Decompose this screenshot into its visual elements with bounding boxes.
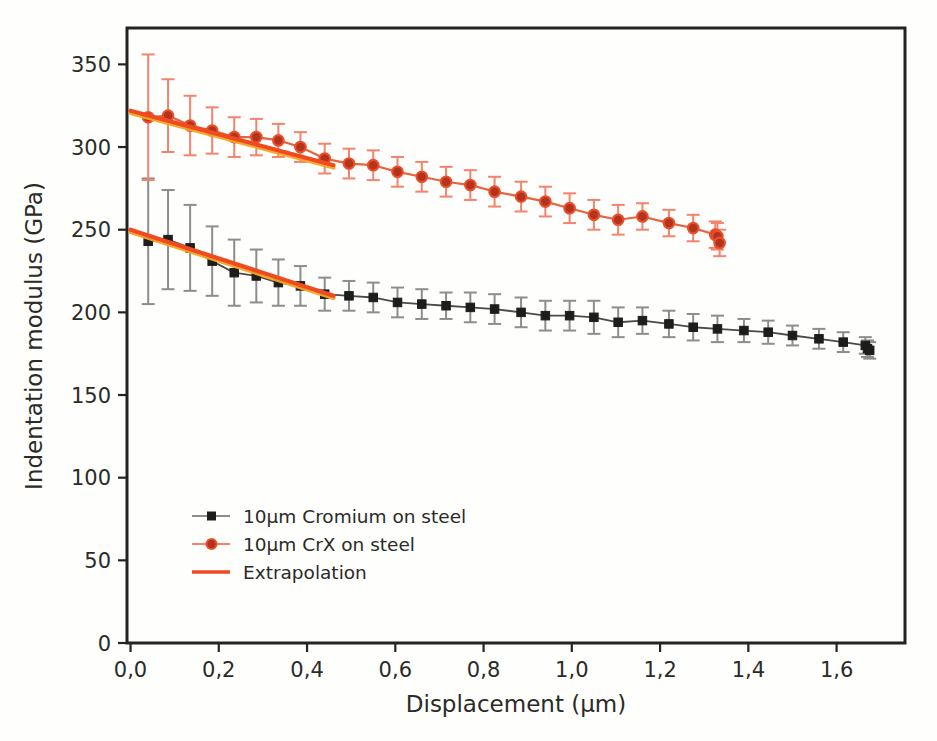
- data-point: [251, 132, 262, 143]
- data-point: [368, 160, 379, 171]
- data-point: [637, 211, 648, 222]
- data-point: [466, 303, 475, 312]
- y-axis-tick-labels: 050100150200250300350: [71, 53, 111, 656]
- x-tick-label: 0,0: [114, 658, 147, 682]
- data-point: [345, 292, 354, 301]
- data-point: [713, 325, 722, 334]
- data-point: [865, 346, 874, 355]
- extrapolation-line: [131, 111, 334, 168]
- data-point: [369, 293, 378, 302]
- error-bars: [142, 54, 726, 256]
- legend-marker-circle: [207, 539, 217, 549]
- x-tick-label: 1,6: [820, 658, 853, 682]
- data-point: [815, 335, 824, 344]
- y-tick-label: 150: [71, 384, 111, 408]
- data-point: [540, 196, 551, 207]
- series-crx: [142, 54, 726, 256]
- data-point: [295, 142, 306, 153]
- data-point: [489, 186, 500, 197]
- data-point: [392, 167, 403, 178]
- data-point: [393, 298, 402, 307]
- data-point: [664, 218, 675, 229]
- y-tick-label: 100: [71, 466, 111, 490]
- data-point: [788, 331, 797, 340]
- data-point: [273, 135, 284, 146]
- y-tick-label: 0: [98, 632, 111, 656]
- data-point: [688, 223, 699, 234]
- indentation-modulus-chart: 0,00,20,40,60,81,01,21,41,6 050100150200…: [0, 0, 937, 741]
- data-point: [416, 171, 427, 182]
- data-point: [589, 210, 600, 221]
- data-point: [714, 238, 725, 249]
- legend-label: Extrapolation: [243, 562, 367, 583]
- legend-item: Extrapolation: [192, 562, 367, 583]
- chart-figure: 0,00,20,40,60,81,01,21,41,6 050100150200…: [0, 0, 937, 741]
- x-axis-tick-labels: 0,00,20,40,60,81,01,21,41,6: [114, 658, 853, 682]
- legend-item: 10µm CrX on steel: [192, 534, 415, 555]
- data-point: [614, 318, 623, 327]
- data-point: [740, 326, 749, 335]
- data-series-layer: [142, 54, 877, 358]
- data-point: [689, 323, 698, 332]
- data-point: [516, 191, 527, 202]
- x-tick-label: 1,4: [732, 658, 765, 682]
- data-point: [344, 158, 355, 169]
- data-point: [441, 176, 452, 187]
- data-point: [665, 320, 674, 329]
- data-point: [565, 311, 574, 320]
- data-point: [465, 180, 476, 191]
- y-tick-label: 350: [71, 53, 111, 77]
- data-point: [764, 328, 773, 337]
- legend-item: 10µm Cromium on steel: [192, 506, 466, 527]
- y-tick-label: 300: [71, 136, 111, 160]
- data-point: [541, 311, 550, 320]
- data-point: [590, 313, 599, 322]
- x-tick-label: 0,6: [379, 658, 412, 682]
- y-tick-label: 200: [71, 301, 111, 325]
- y-axis-title: Indentation modulus (GPa): [21, 182, 47, 490]
- x-tick-label: 0,8: [467, 658, 500, 682]
- x-tick-label: 0,2: [202, 658, 235, 682]
- y-tick-label: 50: [84, 549, 111, 573]
- y-tick-label: 250: [71, 218, 111, 242]
- data-point: [638, 316, 647, 325]
- x-tick-label: 1,2: [643, 658, 676, 682]
- x-axis-title: Displacement (µm): [406, 691, 626, 717]
- data-point: [839, 338, 848, 347]
- legend-label: 10µm CrX on steel: [243, 534, 415, 555]
- data-point: [230, 268, 239, 277]
- chart-legend: 10µm Cromium on steel10µm CrX on steelEx…: [192, 506, 466, 583]
- legend-marker-square: [207, 512, 216, 521]
- x-tick-label: 0,4: [290, 658, 323, 682]
- data-point: [517, 308, 526, 317]
- data-point: [418, 300, 427, 309]
- data-markers: [144, 235, 874, 354]
- data-point: [490, 305, 499, 314]
- data-point: [564, 203, 575, 214]
- legend-label: 10µm Cromium on steel: [243, 506, 466, 527]
- data-point: [613, 214, 624, 225]
- x-tick-label: 1,0: [555, 658, 588, 682]
- data-point: [442, 301, 451, 310]
